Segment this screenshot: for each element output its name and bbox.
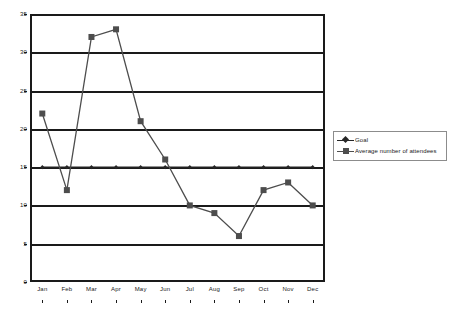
series-layer [30, 14, 325, 282]
y-axis-tick-mark [24, 52, 27, 53]
x-axis-tick-mark [214, 300, 215, 303]
data-point-diamond [114, 165, 118, 169]
legend-label-attendees: Average number of attendees [355, 148, 437, 155]
x-axis-tick-label: Oct [259, 285, 269, 293]
x-axis-tick-label: Mar [86, 285, 97, 293]
data-point-square [113, 26, 119, 32]
x-axis-tick-mark [42, 300, 43, 303]
data-point-diamond [311, 165, 315, 169]
y-axis-tick-mark [24, 14, 27, 15]
x-axis-tick-mark [264, 300, 265, 303]
data-point-diamond [237, 165, 241, 169]
data-point-diamond [40, 165, 44, 169]
x-axis-tick-mark [313, 300, 314, 303]
x-axis-tick-label: Jun [160, 285, 170, 293]
legend-marker-diamond-icon [337, 136, 354, 145]
data-point-diamond [139, 165, 143, 169]
data-point-square [138, 118, 144, 124]
chart-legend: Goal Average number of attendees [333, 131, 447, 161]
x-axis-tick-mark [239, 300, 240, 303]
x-axis-tick-label: Aug [209, 285, 220, 293]
x-axis-tick-mark [288, 300, 289, 303]
data-point-diamond [89, 165, 93, 169]
y-axis-tick-mark [24, 167, 27, 168]
legend-label-goal: Goal [355, 137, 368, 144]
series-line [42, 29, 312, 236]
data-point-square [211, 210, 217, 216]
data-point-square [88, 34, 94, 40]
data-point-diamond [212, 165, 216, 169]
x-axis-tick-label: Apr [111, 285, 121, 293]
x-axis-tick-label: Sep [233, 285, 244, 293]
x-axis-tick-mark [91, 300, 92, 303]
data-point-square [39, 111, 45, 117]
y-axis-tick-mark [24, 205, 27, 206]
y-axis: 05101520253035 [0, 14, 27, 282]
x-axis: JanFebMarAprMayJunJulAugSepOctNovDec [30, 285, 325, 299]
data-point-square [310, 202, 316, 208]
x-axis-tick-mark [190, 300, 191, 303]
x-axis-tick-label: May [135, 285, 147, 293]
legend-item-attendees: Average number of attendees [337, 146, 443, 157]
x-axis-tick-mark [67, 300, 68, 303]
data-point-diamond [163, 165, 167, 169]
data-point-square [187, 202, 193, 208]
x-axis-tick-label: Feb [61, 285, 72, 293]
data-point-diamond [188, 165, 192, 169]
x-axis-tick-label: Jul [186, 285, 194, 293]
x-axis-tick-label: Jan [37, 285, 47, 293]
data-point-diamond [286, 165, 290, 169]
data-point-square [285, 179, 291, 185]
y-axis-tick-mark [24, 244, 27, 245]
data-point-diamond [65, 165, 69, 169]
legend-marker-square-icon [337, 147, 354, 156]
data-point-square [261, 187, 267, 193]
data-point-square [162, 156, 168, 162]
data-point-square [236, 233, 242, 239]
x-axis-tick-mark [141, 300, 142, 303]
y-axis-tick-mark [24, 91, 27, 92]
data-point-diamond [261, 165, 265, 169]
x-axis-tick-label: Dec [307, 285, 318, 293]
x-axis-tick-label: Nov [282, 285, 293, 293]
x-axis-tick-mark [165, 300, 166, 303]
x-axis-tick-mark [116, 300, 117, 303]
line-chart: 05101520253035 JanFebMarAprMayJunJulAugS… [0, 0, 449, 309]
legend-item-goal: Goal [337, 135, 443, 146]
data-point-square [64, 187, 70, 193]
y-axis-tick-mark [24, 129, 27, 130]
y-axis-tick-mark [24, 282, 27, 283]
